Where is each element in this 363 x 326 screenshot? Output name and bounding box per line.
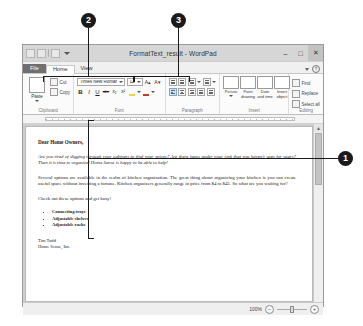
paste-label: Paste: [31, 94, 43, 99]
zoom-slider-thumb[interactable]: [290, 306, 294, 313]
select-all-label: Select all: [302, 102, 320, 107]
document-text[interactable]: Dear Home Owners, Are you tired of diggi…: [26, 127, 312, 251]
chevron-down-icon[interactable]: [212, 81, 216, 83]
callout-2-bracket: [43, 76, 134, 77]
redo-icon[interactable]: [51, 49, 60, 58]
callout-1-label: 1: [343, 154, 348, 163]
title-bar: FormatText_result - WordPad – □ ✕: [23, 45, 323, 62]
grow-font-icon[interactable]: A▴: [144, 78, 152, 86]
insert-object-icon: [274, 76, 290, 89]
chevron-down-icon[interactable]: [151, 91, 155, 93]
increase-indent-icon[interactable]: [178, 78, 186, 86]
editing-group-label: Editing: [292, 108, 320, 114]
qat-separator: [48, 49, 49, 57]
date-time-icon: [257, 76, 273, 89]
select-all-button[interactable]: Select all: [292, 100, 320, 108]
cut-icon: [50, 78, 58, 86]
callout-1-bracket-bottom: [88, 238, 94, 239]
callout-2-leader-vertical: [88, 28, 89, 76]
find-button[interactable]: Find: [292, 79, 320, 87]
paint-drawing-button[interactable]: Paint drawing: [240, 76, 256, 99]
document-greeting: Dear Home Owners,: [38, 139, 296, 146]
superscript-button[interactable]: x²: [120, 88, 127, 96]
cut-label: Cut: [60, 80, 67, 85]
font-color-icon[interactable]: [142, 88, 149, 96]
callout-3-bracket: [134, 76, 190, 77]
chevron-down-icon[interactable]: [137, 81, 141, 83]
ribbon-group-paragraph: Paragraph: [166, 74, 221, 114]
callout-3-leader-vertical: [178, 28, 179, 76]
callout-2-bracket-left: [43, 76, 44, 82]
clipboard-group-label: Clipboard: [26, 108, 70, 114]
minimize-button[interactable]: –: [278, 45, 293, 61]
replace-label: Replace: [302, 91, 319, 96]
tab-home[interactable]: Home: [46, 65, 75, 75]
maximize-button[interactable]: □: [293, 45, 308, 61]
document-paragraph-2: Several options are available in the rea…: [38, 175, 296, 188]
decrease-indent-icon[interactable]: [169, 78, 177, 86]
replace-button[interactable]: Replace: [292, 90, 320, 98]
line-spacing-icon[interactable]: [203, 78, 211, 86]
copy-label: Copy: [60, 90, 71, 95]
help-icon[interactable]: ?: [312, 65, 320, 73]
callout-1-leader-horizontal: [88, 158, 338, 159]
callout-1-bracket-vertical: [88, 120, 89, 238]
quick-access-toolbar[interactable]: [23, 49, 70, 58]
zoom-level-label: 100%: [249, 306, 262, 312]
zoom-out-button[interactable]: –: [265, 305, 274, 314]
tab-helpers: ?: [305, 65, 323, 73]
chevron-down-icon[interactable]: [119, 81, 123, 83]
italic-button[interactable]: I: [86, 88, 93, 96]
vertical-scrollbar[interactable]: ▲: [313, 124, 323, 302]
picture-button[interactable]: Picture: [223, 76, 239, 97]
paste-button[interactable]: Paste: [26, 76, 48, 102]
font-family-combo[interactable]: Times New Roman: [77, 78, 125, 86]
bold-button[interactable]: B: [77, 88, 84, 96]
callout-2-label: 2: [86, 16, 91, 25]
insert-object-button[interactable]: Insert object: [274, 76, 290, 99]
date-time-label: Date and time: [257, 90, 273, 99]
font-group-label: Font: [77, 108, 162, 114]
date-time-button[interactable]: Date and time: [257, 76, 273, 99]
find-icon: [292, 79, 300, 87]
callout-3: 3: [171, 13, 186, 28]
close-button[interactable]: ✕: [308, 45, 323, 61]
tab-view[interactable]: View: [75, 65, 99, 74]
align-center-icon[interactable]: [178, 88, 186, 96]
subscript-button[interactable]: x₂: [111, 88, 118, 96]
justify-icon[interactable]: [197, 88, 205, 96]
cut-button[interactable]: Cut: [50, 78, 70, 86]
align-right-icon[interactable]: [188, 88, 196, 96]
paint-drawing-icon: [240, 76, 256, 89]
ruler[interactable]: [23, 115, 323, 124]
save-icon[interactable]: [26, 49, 35, 58]
select-all-icon: [292, 100, 300, 108]
chevron-down-icon[interactable]: [197, 81, 201, 83]
copy-button[interactable]: Copy: [50, 88, 70, 96]
underline-button[interactable]: U: [94, 88, 101, 96]
chevron-down-icon[interactable]: [64, 52, 70, 55]
chevron-down-icon[interactable]: [35, 100, 39, 102]
scrollbar-thumb[interactable]: [315, 133, 322, 185]
align-left-icon[interactable]: [169, 88, 177, 96]
callout-3-bracket-left: [134, 76, 135, 82]
document-page[interactable]: Dear Home Owners, Are you tired of diggi…: [25, 126, 313, 302]
chevron-down-icon[interactable]: [137, 91, 141, 93]
document-signature-company: Home Sense, Inc.: [38, 244, 296, 250]
zoom-in-button[interactable]: +: [310, 305, 319, 314]
chevron-down-icon[interactable]: [229, 95, 233, 97]
callout-3-label: 3: [176, 16, 181, 25]
strikethrough-button[interactable]: abc: [103, 88, 110, 96]
shrink-font-icon[interactable]: A▾: [154, 78, 162, 86]
callout-2: 2: [81, 13, 96, 28]
paragraph-settings-icon[interactable]: [207, 88, 215, 96]
undo-icon[interactable]: [37, 49, 46, 58]
insert-object-label: Insert object: [274, 90, 290, 99]
text-highlight-icon[interactable]: [128, 88, 135, 96]
tab-file[interactable]: File: [23, 64, 46, 74]
replace-icon: [292, 90, 300, 98]
zoom-slider[interactable]: [277, 309, 307, 310]
chevron-up-icon[interactable]: [305, 68, 309, 71]
scroll-up-arrow-icon[interactable]: ▲: [314, 124, 323, 132]
find-label: Find: [302, 81, 311, 86]
